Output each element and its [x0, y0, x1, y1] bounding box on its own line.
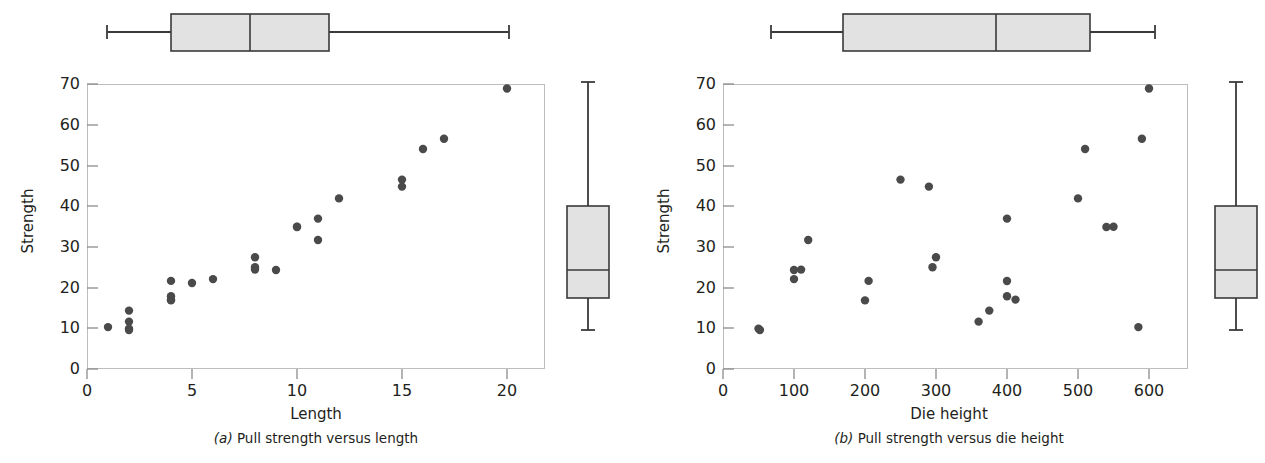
ytick-a-20: 20	[40, 278, 80, 297]
ytick-b-10: 10	[676, 318, 716, 337]
ytick-b-30: 30	[676, 237, 716, 256]
xtick-b-100: 100	[764, 381, 824, 400]
caption-a-label: (a)	[214, 430, 233, 446]
xtick-a-15: 15	[382, 381, 422, 400]
xtick-a-10: 10	[277, 381, 317, 400]
xtick-a-5: 5	[172, 381, 212, 400]
xaxis-label-b: Die height	[633, 405, 1265, 423]
xtick-a-0: 0	[67, 381, 107, 400]
ytick-a-0: 0	[40, 359, 80, 378]
ytick-a-40: 40	[40, 196, 80, 215]
panel-pull-strength-vs-length: 70 60 50 40 30 20 10 0 0 5 10 15 20 Leng…	[0, 0, 632, 463]
ytick-b-40: 40	[676, 196, 716, 215]
caption-b: (b) Pull strength versus die height	[633, 430, 1265, 446]
caption-b-text: Pull strength versus die height	[858, 430, 1064, 446]
caption-b-label: (b)	[834, 430, 853, 446]
caption-a: (a) Pull strength versus length	[0, 430, 632, 446]
ytick-b-20: 20	[676, 278, 716, 297]
ytick-a-30: 30	[40, 237, 80, 256]
yaxis-label-b: Strength	[655, 171, 673, 271]
ytick-b-50: 50	[676, 156, 716, 175]
xtick-b-200: 200	[835, 381, 895, 400]
ytick-b-60: 60	[676, 115, 716, 134]
xtick-b-400: 400	[977, 381, 1037, 400]
xtick-b-600: 600	[1119, 381, 1179, 400]
caption-a-text: Pull strength versus length	[237, 430, 418, 446]
panel-pull-strength-vs-die-height: 70 60 50 40 30 20 10 0 0 100 200 300 400…	[633, 0, 1265, 463]
ytick-b-0: 0	[676, 359, 716, 378]
xaxis-label-a: Length	[0, 405, 632, 423]
figure-wire-bond-pull-strength: 70 60 50 40 30 20 10 0 0 5 10 15 20 Leng…	[0, 0, 1265, 463]
ytick-a-60: 60	[40, 115, 80, 134]
ytick-a-70: 70	[40, 74, 80, 93]
xtick-b-300: 300	[906, 381, 966, 400]
xtick-b-0: 0	[703, 381, 743, 400]
xtick-b-500: 500	[1048, 381, 1108, 400]
ytick-a-10: 10	[40, 318, 80, 337]
xtick-a-20: 20	[487, 381, 527, 400]
yaxis-label-a: Strength	[19, 171, 37, 271]
ytick-b-70: 70	[676, 74, 716, 93]
ytick-a-50: 50	[40, 156, 80, 175]
